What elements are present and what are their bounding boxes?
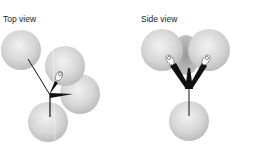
sphere-upper-left [1,30,41,70]
side-view-molecule [141,29,230,141]
diagram-canvas [0,0,253,148]
sphere-upper-right [45,46,85,86]
top-view-molecule [1,30,100,142]
sphere-right [188,29,230,71]
sphere-bottom [28,102,68,142]
